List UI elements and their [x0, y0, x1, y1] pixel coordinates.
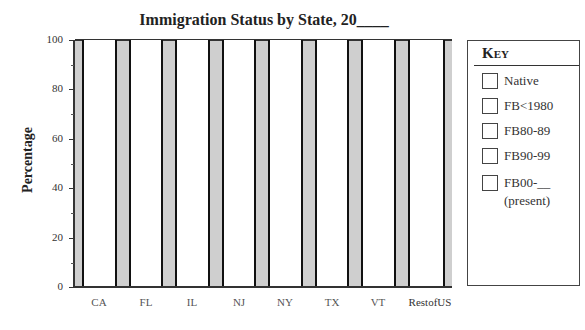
bar-tx	[315, 40, 349, 287]
y-tick-label: 80	[30, 82, 63, 94]
bar-fl	[129, 40, 163, 287]
legend-label: FB<1980	[504, 98, 553, 114]
y-tick	[69, 188, 74, 189]
legend-label: FB80-89	[504, 123, 550, 139]
x-axis	[73, 286, 452, 288]
x-tick-label: VT	[355, 296, 401, 308]
legend-divider	[474, 65, 579, 66]
y-tick-label: 20	[30, 231, 63, 243]
legend-swatch	[482, 123, 498, 139]
x-tick-label: TX	[309, 296, 355, 308]
x-tick-label: FL	[123, 296, 169, 308]
y-minor-tick	[71, 114, 74, 115]
y-tick	[69, 40, 74, 41]
y-tick	[69, 139, 74, 140]
bar-ny	[268, 40, 303, 287]
y-tick	[69, 89, 74, 90]
legend-swatch	[482, 175, 498, 191]
y-tick	[69, 287, 74, 288]
x-tick-label: CA	[76, 296, 122, 308]
y-minor-tick	[71, 213, 74, 214]
legend-label: FB90-99	[504, 148, 550, 164]
y-minor-tick	[71, 263, 74, 264]
x-tick-label: NY	[262, 296, 308, 308]
y-tick-label: 100	[30, 33, 63, 45]
legend: Key Native FB<1980 FB80-89 FB90-99 FB00-…	[467, 40, 580, 286]
y-tick	[69, 238, 74, 239]
bar-nj	[222, 40, 256, 287]
legend-label: Native	[504, 73, 539, 89]
legend-title: Key	[482, 45, 509, 62]
x-tick-label: RestofUS	[400, 296, 460, 308]
legend-swatch	[482, 148, 498, 164]
legend-label-sub: (present)	[504, 193, 550, 209]
y-tick-label: 40	[30, 181, 63, 193]
y-tick-label: 0	[30, 280, 63, 292]
y-minor-tick	[71, 65, 74, 66]
y-minor-tick	[71, 164, 74, 165]
x-tick-label: NJ	[216, 296, 262, 308]
bar-restofus	[408, 40, 445, 287]
x-tick-label: IL	[169, 296, 215, 308]
legend-swatch	[482, 73, 498, 89]
chart-title: Immigration Status by State, 20____	[75, 11, 453, 29]
legend-label: FB00-__	[504, 175, 550, 191]
bar-vt	[361, 40, 396, 287]
bar-ca	[82, 40, 117, 287]
legend-swatch	[482, 98, 498, 114]
bar-il	[175, 40, 210, 287]
y-tick-label: 60	[30, 132, 63, 144]
